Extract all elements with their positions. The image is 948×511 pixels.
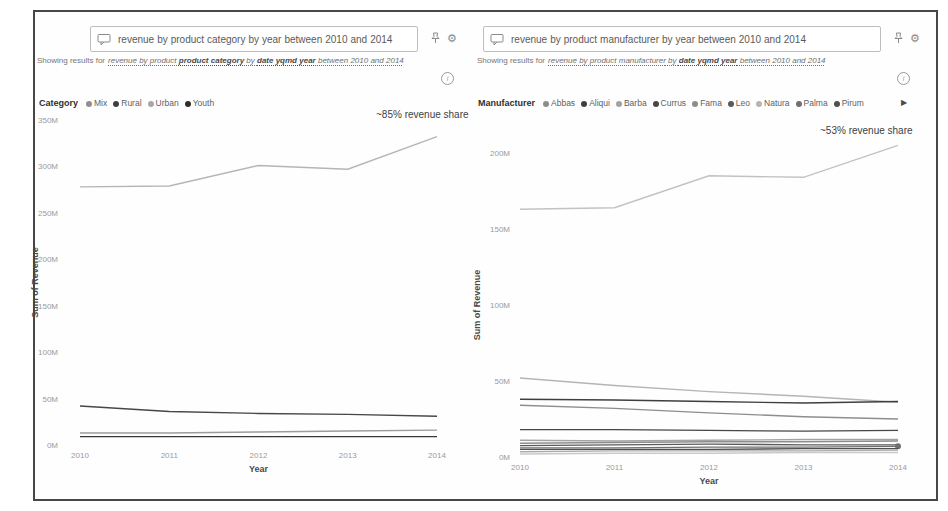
result-term: by xyxy=(666,56,679,65)
legend-item-natura[interactable]: Natura xyxy=(756,98,790,108)
query-token: 2014 xyxy=(784,34,806,45)
pin-visual-icon[interactable] xyxy=(891,31,905,45)
query-token: between xyxy=(698,34,736,45)
legend-item-abbas[interactable]: Abbas xyxy=(543,98,575,108)
query-token: and xyxy=(764,34,781,45)
svg-text:2011: 2011 xyxy=(161,451,179,460)
result-term: product category xyxy=(179,56,244,65)
series-line xyxy=(520,450,898,452)
legend-title: Category xyxy=(39,98,78,108)
showing-results: Showing results forrevenue by product ma… xyxy=(477,56,826,65)
query-token: year xyxy=(676,34,695,45)
query-token: by xyxy=(248,34,259,45)
svg-text:100M: 100M xyxy=(490,301,510,310)
result-term: between 2010 and 2014 xyxy=(737,56,825,65)
legend-label: Natura xyxy=(764,98,790,108)
svg-text:Year: Year xyxy=(699,476,719,486)
legend-item-barba[interactable]: Barba xyxy=(616,98,647,108)
pin-visual-icon[interactable] xyxy=(428,31,442,45)
svg-text:Sum of Revenue: Sum of Revenue xyxy=(30,247,40,318)
svg-text:300M: 300M xyxy=(38,162,58,171)
svg-text:2011: 2011 xyxy=(606,463,624,472)
svg-text:2010: 2010 xyxy=(71,451,89,460)
query-token: product xyxy=(564,34,597,45)
query-token: year xyxy=(262,34,281,45)
revenue-share-annotation: ~85% revenue share xyxy=(376,109,469,120)
query-token: 2014 xyxy=(370,34,392,45)
legend-item-mix[interactable]: Mix xyxy=(86,98,107,108)
category-line-chart: 0M50M100M150M200M250M300M350M20102011201… xyxy=(28,110,478,500)
query-token: 2010 xyxy=(739,34,761,45)
series-line-rural xyxy=(80,406,437,416)
legend-items: MixRuralUrbanYouth xyxy=(86,98,220,108)
showing-results-phrase[interactable]: revenue by product manufacturer by date … xyxy=(548,56,826,65)
legend-item-leo[interactable]: Leo xyxy=(728,98,750,108)
search-query: revenuebyproductmanufacturerbyyearbetwee… xyxy=(511,34,809,45)
svg-text:0M: 0M xyxy=(47,441,58,450)
speech-bubble-icon xyxy=(490,33,504,46)
legend-label: Currus xyxy=(661,98,687,108)
settings-gear-icon[interactable]: ⚙ xyxy=(445,31,459,45)
legend-item-rural[interactable]: Rural xyxy=(113,98,141,108)
legend-item-urban[interactable]: Urban xyxy=(148,98,179,108)
legend-title: Manufacturer xyxy=(478,98,535,108)
qna-question-input[interactable]: revenuebyproductcategorybyyearbetween201… xyxy=(90,26,418,52)
legend-dot xyxy=(728,101,734,107)
legend-item-currus[interactable]: Currus xyxy=(653,98,687,108)
svg-text:2010: 2010 xyxy=(511,463,529,472)
svg-text:250M: 250M xyxy=(38,209,58,218)
legend-dot xyxy=(581,101,587,107)
svg-text:150M: 150M xyxy=(38,302,58,311)
query-token: product xyxy=(171,34,204,45)
legend-item-palma[interactable]: Palma xyxy=(796,98,828,108)
series-line-natura xyxy=(520,378,898,402)
settings-gear-icon[interactable]: ⚙ xyxy=(908,31,922,45)
query-token: and xyxy=(351,34,368,45)
legend-item-fama[interactable]: Fama xyxy=(692,98,722,108)
legend-dot xyxy=(543,101,549,107)
qna-panel-manufacturer: revenuebyproductmanufacturerbyyearbetwee… xyxy=(473,10,940,503)
legend-item-youth[interactable]: Youth xyxy=(185,98,214,108)
svg-text:100M: 100M xyxy=(38,348,58,357)
series-line-mix xyxy=(80,430,437,433)
legend-label: Aliqui xyxy=(589,98,610,108)
svg-text:150M: 150M xyxy=(490,225,510,234)
series-line xyxy=(520,145,898,209)
legend-label: Pirum xyxy=(842,98,864,108)
legend-item-aliqui[interactable]: Aliqui xyxy=(581,98,610,108)
legend: CategoryMixRuralUrbanYouth xyxy=(39,98,459,108)
pushpin-glyph xyxy=(893,32,904,44)
legend-label: Youth xyxy=(193,98,214,108)
series-line-currus xyxy=(520,430,898,432)
svg-text:2013: 2013 xyxy=(795,463,813,472)
query-token: revenue xyxy=(511,34,547,45)
svg-text:0M: 0M xyxy=(499,453,510,462)
series-line-aliqui xyxy=(520,399,898,403)
info-icon[interactable]: i xyxy=(441,72,454,85)
svg-text:2012: 2012 xyxy=(700,463,718,472)
legend-scroll-right-icon[interactable]: ▶ xyxy=(901,98,907,107)
legend-label: Mix xyxy=(94,98,107,108)
legend-label: Leo xyxy=(736,98,750,108)
qna-panel-category: revenuebyproductcategorybyyearbetween201… xyxy=(33,10,473,503)
qna-question-input[interactable]: revenuebyproductmanufacturerbyyearbetwee… xyxy=(483,26,881,52)
revenue-share-annotation: ~53% revenue share xyxy=(820,125,913,136)
svg-text:200M: 200M xyxy=(490,149,510,158)
legend-dot xyxy=(185,101,191,107)
result-term: by xyxy=(244,56,257,65)
legend-item-pirum[interactable]: Pirum xyxy=(834,98,864,108)
result-term: between 2010 and 2014 xyxy=(316,56,404,65)
info-icon[interactable]: i xyxy=(897,72,910,85)
result-term: revenue by product xyxy=(108,56,179,65)
legend: ManufacturerAbbasAliquiBarbaCurrusFamaLe… xyxy=(478,98,896,108)
series-line-abbas xyxy=(520,405,898,419)
showing-results-phrase[interactable]: revenue by product product category by d… xyxy=(108,56,404,65)
svg-text:Year: Year xyxy=(249,464,269,474)
svg-text:50M: 50M xyxy=(494,377,510,386)
legend-dot xyxy=(113,101,119,107)
svg-text:50M: 50M xyxy=(42,395,58,404)
svg-text:Sum of Revenue: Sum of Revenue xyxy=(472,270,482,341)
showing-results-prefix: Showing results for xyxy=(37,56,105,65)
powerbi-qna-screenshot: revenuebyproductcategorybyyearbetween201… xyxy=(0,0,948,511)
legend-dot xyxy=(86,101,92,107)
